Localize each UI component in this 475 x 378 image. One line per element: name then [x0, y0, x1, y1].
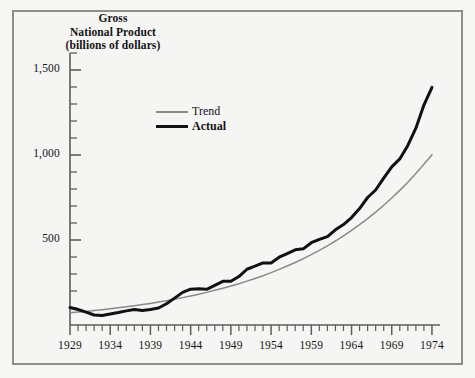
legend-entry-actual: Actual [156, 119, 266, 134]
x-tick-label: 1969 [370, 339, 414, 351]
x-axis-ticks [70, 325, 432, 335]
chart-plot-area [0, 0, 475, 378]
legend-swatch-actual [156, 125, 188, 128]
chart-legend: Trend Actual [156, 104, 266, 134]
x-tick-label: 1939 [128, 339, 172, 351]
x-tick-label: 1929 [48, 339, 92, 351]
x-tick-label: 1959 [289, 339, 333, 351]
legend-swatch-trend [156, 111, 188, 113]
x-tick-label: 1954 [249, 339, 293, 351]
y-tick-label: 1,500 [8, 62, 60, 74]
x-tick-label: 1964 [330, 339, 374, 351]
figure: Gross National Product (billions of doll… [0, 0, 475, 378]
x-tick-label: 1944 [169, 339, 213, 351]
x-tick-label: 1934 [88, 339, 132, 351]
series-line-trend [70, 155, 432, 313]
y-tick-label: 500 [8, 232, 60, 244]
y-tick-label: 1,000 [8, 147, 60, 159]
x-tick-label: 1949 [209, 339, 253, 351]
legend-label-trend: Trend [192, 104, 220, 119]
legend-label-actual: Actual [192, 119, 226, 134]
x-tick-label: 1974 [410, 339, 454, 351]
legend-entry-trend: Trend [156, 104, 266, 119]
y-axis-ticks [70, 53, 81, 308]
